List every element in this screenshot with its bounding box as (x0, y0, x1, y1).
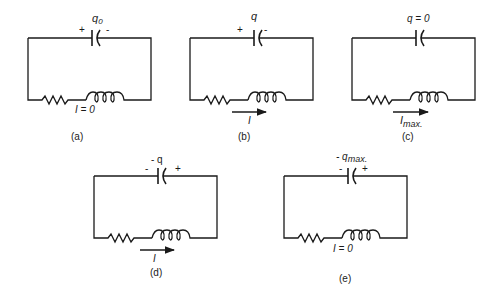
circuit-d (94, 168, 217, 250)
circuit-b (190, 30, 313, 112)
current-label-a: I = 0 (75, 104, 95, 115)
circuit-e (284, 168, 407, 242)
sign-right-e: + (362, 163, 368, 174)
sign-left-a: + (79, 24, 85, 35)
circuit-a (28, 30, 151, 104)
current-label-e: I = 0 (333, 243, 353, 254)
sign-right-b: - (264, 24, 267, 35)
current-label-b: I (248, 115, 251, 126)
caption-e: (e) (339, 273, 351, 284)
sign-left-b: + (237, 24, 243, 35)
charge-label-c: q = 0 (407, 13, 430, 24)
sign-left-e: - (339, 163, 342, 174)
lc-circuit-diagram: + q0 - I = 0 (a) + q - I (b) q = 0 Imax.… (0, 0, 498, 288)
sign-left-d: - (145, 163, 148, 174)
charge-label-a: q0 (92, 12, 103, 26)
charge-label-b: q (251, 10, 258, 22)
circuit-c (352, 30, 475, 112)
sign-right-a: - (106, 24, 109, 35)
current-label-d: I (153, 253, 156, 264)
caption-b: (b) (238, 131, 250, 142)
caption-a: (a) (71, 131, 83, 142)
charge-label-d: - q (151, 154, 163, 165)
caption-d: (d) (150, 267, 162, 278)
sign-right-d: + (175, 163, 181, 174)
current-label-c: Imax. (400, 114, 423, 129)
caption-c: (c) (402, 131, 414, 142)
